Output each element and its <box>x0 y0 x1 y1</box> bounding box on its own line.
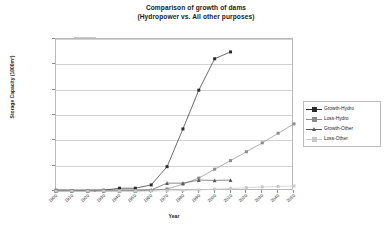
plot-area <box>55 38 293 190</box>
data-point-marker <box>245 186 248 189</box>
data-point-marker <box>229 50 232 53</box>
data-point-marker <box>277 132 280 135</box>
legend-item-growth-other[interactable]: Growth-Other <box>305 124 378 134</box>
data-point-marker <box>150 190 153 193</box>
chart-container: Comparison of growth of dams (Hydropower… <box>0 0 392 237</box>
x-tick-label: 1940 <box>111 193 122 203</box>
legend-label: Loss-Hydro <box>324 115 349 123</box>
data-point-marker <box>213 188 216 191</box>
x-tick-label: 1900 <box>48 193 59 203</box>
series-line <box>56 180 231 191</box>
data-point-marker <box>197 188 200 191</box>
data-point-marker <box>245 150 248 153</box>
legend-item-loss-other[interactable]: Loss-Other <box>305 134 378 144</box>
data-point-marker <box>134 190 137 193</box>
x-axis-title: Year <box>55 213 293 219</box>
legend-label: Growth-Hydro <box>324 105 354 113</box>
legend-marker-icon <box>305 135 323 143</box>
x-tick-label: 2030 <box>254 193 265 203</box>
data-point-marker <box>293 184 296 187</box>
legend-marker-icon <box>305 115 323 123</box>
data-point-marker <box>229 187 232 190</box>
x-tick-label: 1910 <box>63 193 74 203</box>
x-tick-label: 1950 <box>127 193 138 203</box>
y-axis-title: Storage Capacity (1000m³) <box>9 27 15 147</box>
data-point-marker <box>261 185 264 188</box>
x-tick-label: 2010 <box>222 193 233 203</box>
data-point-marker <box>213 57 216 60</box>
x-tick-label: 1920 <box>79 193 90 203</box>
chart-title: Comparison of growth of dams (Hydropower… <box>0 3 392 21</box>
series-line <box>56 124 294 191</box>
data-point-marker <box>166 189 169 192</box>
x-tick-label: 2020 <box>238 193 249 203</box>
data-point-marker <box>181 189 184 192</box>
x-tick-label: 1980 <box>174 193 185 203</box>
x-tick-label: 1990 <box>190 193 201 203</box>
series-line <box>56 52 231 191</box>
legend-label: Loss-Other <box>324 135 348 143</box>
data-point-marker <box>293 122 296 125</box>
legend-item-growth-hydro[interactable]: Growth-Hydro <box>305 104 378 114</box>
data-point-marker <box>229 159 232 162</box>
data-point-marker <box>213 168 216 171</box>
legend-label: Growth-Other <box>324 125 353 133</box>
data-point-marker <box>197 89 200 92</box>
x-tick-label: 1970 <box>159 193 170 203</box>
chart-legend: Growth-HydroLoss-HydroGrowth-OtherLoss-O… <box>303 101 381 147</box>
legend-marker-icon <box>305 105 323 113</box>
x-tick-label: 1930 <box>95 193 106 203</box>
data-point-marker <box>70 190 73 193</box>
x-tick-label: 2000 <box>206 193 217 203</box>
data-point-marker <box>277 185 280 188</box>
data-point-marker <box>55 190 58 193</box>
chart-title-line2: (Hydropower vs. All other purposes) <box>0 12 392 21</box>
chart-title-line1: Comparison of growth of dams <box>146 4 246 11</box>
legend-item-loss-hydro[interactable]: Loss-Hydro <box>305 114 378 124</box>
series-layer <box>56 39 294 191</box>
data-point-marker <box>181 127 184 130</box>
x-tick-label: 2050 <box>286 193 297 203</box>
data-point-marker <box>86 190 89 193</box>
data-point-marker <box>261 141 264 144</box>
data-point-marker <box>118 190 121 193</box>
x-tick-label: 2040 <box>270 193 281 203</box>
data-point-marker <box>102 190 105 193</box>
data-point-marker <box>150 183 153 186</box>
x-tick-label: 1960 <box>143 193 154 203</box>
data-point-marker <box>166 165 169 168</box>
legend-marker-icon <box>305 125 323 133</box>
